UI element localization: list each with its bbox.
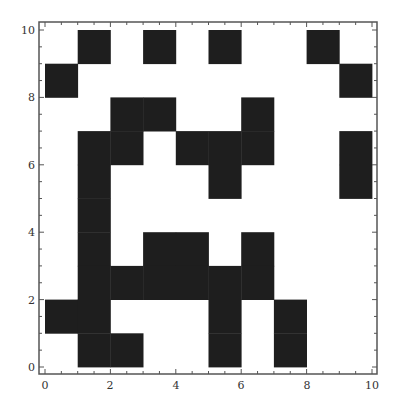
grid-cell [176, 131, 209, 165]
grid-plot: 0 2 4 6 8 10 0 2 4 6 8 10 [0, 0, 401, 409]
grid-cell [45, 64, 78, 98]
grid-cell [78, 165, 111, 199]
grid-cell [45, 300, 78, 334]
grid-cell [143, 232, 176, 266]
grid-cell [176, 232, 209, 266]
grid-cell [241, 97, 274, 131]
grid-cell [78, 300, 111, 334]
filled-cells [45, 30, 372, 367]
grid-cell [241, 266, 274, 300]
x-tick-label: 6 [238, 379, 245, 392]
y-tick-label: 6 [28, 159, 35, 172]
grid-cell [110, 131, 143, 165]
grid-cell [78, 30, 111, 64]
grid-cell [143, 30, 176, 64]
x-tick-label: 8 [304, 379, 311, 392]
grid-cell [78, 333, 111, 367]
x-tick-label: 4 [173, 379, 180, 392]
grid-cell [209, 131, 242, 165]
grid-cell [78, 266, 111, 300]
x-tick-label: 10 [365, 379, 379, 392]
grid-cell [78, 232, 111, 266]
grid-cell [274, 300, 307, 334]
grid-cell [209, 165, 242, 199]
grid-cell [110, 333, 143, 367]
x-tick-label: 2 [107, 379, 114, 392]
grid-cell [209, 30, 242, 64]
grid-cell [209, 300, 242, 334]
y-tick-label: 4 [28, 226, 35, 239]
y-axis-labels: 0 2 4 6 8 10 [21, 24, 35, 374]
y-tick-label: 8 [28, 91, 35, 104]
grid-cell [110, 266, 143, 300]
grid-cell [209, 266, 242, 300]
grid-cell [274, 333, 307, 367]
y-tick-label: 0 [28, 361, 35, 374]
x-tick-label: 0 [42, 379, 49, 392]
y-tick-label: 2 [28, 294, 35, 307]
grid-cell [176, 266, 209, 300]
grid-cell [339, 64, 372, 98]
grid-cell [143, 97, 176, 131]
grid-cell [209, 333, 242, 367]
y-tick-label: 10 [21, 24, 35, 37]
grid-cell [339, 165, 372, 199]
grid-cell [241, 131, 274, 165]
grid-cell [78, 131, 111, 165]
grid-cell [143, 266, 176, 300]
grid-cell [241, 232, 274, 266]
grid-cell [307, 30, 340, 64]
grid-cell [78, 199, 111, 233]
grid-cell [339, 131, 372, 165]
grid-cell [110, 97, 143, 131]
x-axis-labels: 0 2 4 6 8 10 [42, 379, 380, 392]
